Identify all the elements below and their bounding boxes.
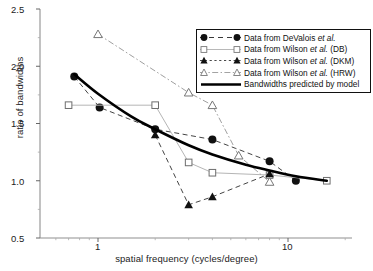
legend-key-filled-circle <box>199 32 243 43</box>
legend-label-devalois: Data from DeValois et al. <box>243 33 336 43</box>
legend-item-model: Bandwidths predicted by model <box>199 78 368 90</box>
x-tick-1: 1 <box>95 241 100 252</box>
legend-label-wilson-hrw: Data from Wilson et al. (HRW) <box>243 68 355 78</box>
x-axis-title: spatial frequency (cycles/degree) <box>0 253 373 264</box>
y-tick-0.5: 0.5 <box>11 233 24 244</box>
series-open-square <box>65 102 330 184</box>
legend-item-wilson-db: Data from Wilson et al. (DB) <box>199 44 368 56</box>
y-tick-1.0: 1.0 <box>11 176 24 187</box>
legend-key-solid-line <box>199 79 243 90</box>
x-tick-10: 10 <box>282 241 293 252</box>
y-axis-title: ratio of bandwidths <box>14 51 25 145</box>
legend-label-wilson-db: Data from Wilson et al. (DB) <box>243 44 347 54</box>
legend-label-wilson-dkm: Data from Wilson et al. (DKM) <box>243 56 354 66</box>
chart-figure: 2.5 2.0 1.5 1.0 0.5 1 10 ratio of bandwi… <box>0 0 373 271</box>
legend-key-open-square <box>199 44 243 55</box>
y-tick-2.5: 2.5 <box>11 4 24 15</box>
legend-item-wilson-dkm: Data from Wilson et al. (DKM) <box>199 55 368 67</box>
legend-key-open-triangle <box>199 67 243 78</box>
legend-key-filled-triangle <box>199 55 243 66</box>
legend-item-devalois: Data from DeValois et al. <box>199 32 368 44</box>
legend-label-model: Bandwidths predicted by model <box>243 79 359 89</box>
chart-legend: Data from DeValois et al. Data from Wils… <box>196 29 371 93</box>
legend-item-wilson-hrw: Data from Wilson et al. (HRW) <box>199 67 368 79</box>
